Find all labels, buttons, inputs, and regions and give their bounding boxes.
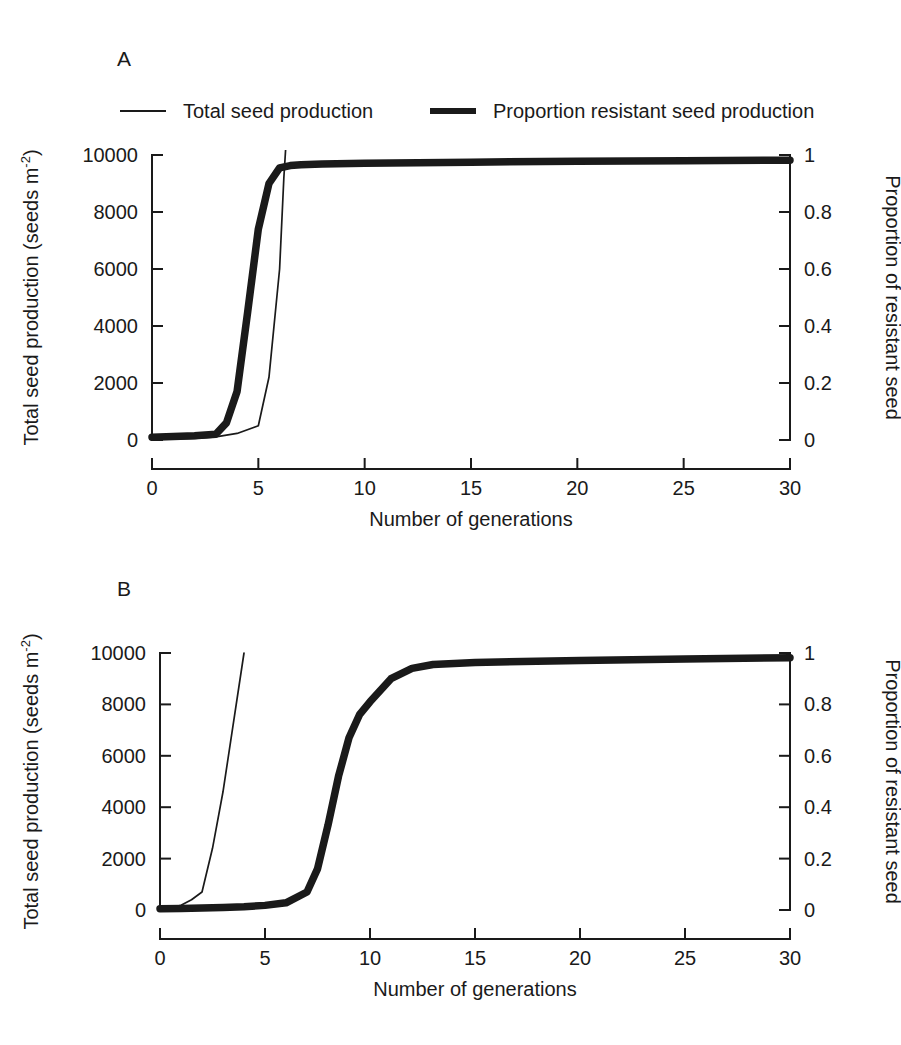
bottom-axis-tick-label: 10 [359,947,381,969]
left-axis-tick-label: 4000 [102,796,147,818]
bottom-axis-tick-label: 0 [154,947,165,969]
left-axis-tick-label: 6000 [94,258,139,280]
left-axis-tick-label: 6000 [102,745,147,767]
series-line-proportion-resistant-seed [152,160,790,437]
left-axis-tick-label: 8000 [94,201,139,223]
panel-b: B 020004000600080001000000.20.40.60.8105… [0,545,901,1045]
series-line-total-seed-production [160,653,244,909]
plot-area-b: 020004000600080001000000.20.40.60.810510… [0,545,901,1045]
series-group [160,653,790,909]
right-axis-tick-label: 0.4 [804,315,832,337]
right-axis-tick-label: 0.8 [804,693,832,715]
y-axis-title-left-main: Total seed production (seeds m [20,652,42,930]
bottom-axis-tick-label: 20 [569,947,591,969]
bottom-axis-tick-label: 5 [259,947,270,969]
right-axis-tick-label: 1 [804,144,815,166]
right-axis-tick-label: 0.2 [804,372,832,394]
right-axis-tick-label: 0.2 [804,848,832,870]
y-axis-title-right: Proportion of resistant seed [882,659,901,904]
y-axis-title-left: Total seed production (seeds m-2) [18,633,42,929]
bottom-axis-tick-label: 15 [460,477,482,499]
series-group [152,144,790,440]
left-axis-tick-label: 4000 [94,315,139,337]
plot-area-a: 020004000600080001000000.20.40.60.810510… [0,0,901,545]
y-axis-title-left-main: Total seed production (seeds m [20,168,42,446]
left-axis-tick-label: 0 [127,429,138,451]
bottom-axis-tick-label: 5 [253,477,264,499]
x-axis-title: Number of generations [373,978,576,1000]
right-axis-tick-label: 0.8 [804,201,832,223]
x-axis-title: Number of generations [369,508,572,530]
y-axis-title-left-superscript: -2 [18,640,33,652]
left-axis-tick-label: 2000 [94,372,139,394]
bottom-axis-tick-label: 20 [566,477,588,499]
left-axis-tick-label: 10000 [82,144,138,166]
bottom-axis-tick-label: 0 [146,477,157,499]
right-axis-tick-label: 0.6 [804,745,832,767]
left-axis-tick-label: 2000 [102,848,147,870]
right-axis-tick-label: 0 [804,899,815,921]
left-axis-tick-label: 8000 [102,693,147,715]
y-axis-title-left-close: ) [20,149,42,156]
left-axis-tick-label: 0 [135,899,146,921]
right-axis-tick-label: 1 [804,642,815,664]
bottom-axis-tick-label: 30 [779,947,801,969]
panel-a: A Total seed production Proportion resis… [0,0,901,545]
bottom-axis-tick-label: 25 [674,947,696,969]
series-line-proportion-resistant-seed [160,658,790,909]
y-axis-title-right: Proportion of resistant seed [882,175,901,420]
bottom-axis-tick-label: 15 [464,947,486,969]
bottom-axis-tick-label: 30 [779,477,801,499]
left-axis-tick-label: 10000 [90,642,146,664]
bottom-axis-tick-label: 10 [354,477,376,499]
right-axis-tick-label: 0.4 [804,796,832,818]
figure-root: A Total seed production Proportion resis… [0,0,901,1045]
right-axis-tick-label: 0.6 [804,258,832,280]
right-axis-tick-label: 0 [804,429,815,451]
bottom-axis-tick-label: 25 [673,477,695,499]
y-axis-title-left-close: ) [20,633,42,640]
y-axis-title-left-superscript: -2 [18,156,33,168]
y-axis-title-left: Total seed production (seeds m-2) [18,149,42,445]
